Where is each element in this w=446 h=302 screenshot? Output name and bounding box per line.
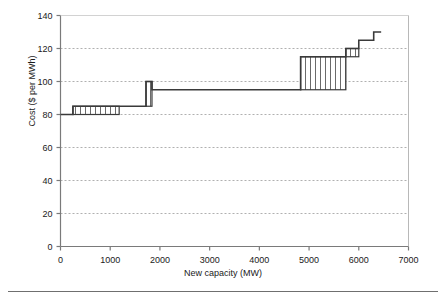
x-tick-label: 6000: [349, 255, 369, 265]
y-tick-label: 0: [47, 242, 52, 252]
x-axis-title: New capacity (MW): [0, 268, 446, 278]
x-tick-label: 2000: [150, 255, 170, 265]
x-tick-label: 5000: [299, 255, 319, 265]
y-tick-labels: 020406080100120140: [37, 11, 52, 252]
x-tick-label: 7000: [398, 255, 418, 265]
x-tick-label: 1000: [100, 255, 120, 265]
y-tick-label: 120: [37, 44, 52, 54]
cost-step-block: [73, 106, 119, 114]
y-tick-label: 40: [42, 176, 52, 186]
y-tick-label: 20: [42, 209, 52, 219]
y-tick-label: 80: [42, 110, 52, 120]
supply-cost-curve: [61, 32, 382, 115]
x-tick-label: 3000: [200, 255, 220, 265]
y-tick-label: 60: [42, 143, 52, 153]
y-tick-label: 100: [37, 77, 52, 87]
chart-figure: 020406080100120140 010002000300040005000…: [0, 0, 446, 302]
x-tick-label: 0: [58, 255, 63, 265]
cost-step-block: [146, 82, 152, 107]
y-tick-label: 140: [37, 11, 52, 21]
cost-step-block: [346, 49, 359, 57]
x-tick-labels: 01000200030004000500060007000: [58, 255, 419, 265]
footer-divider: [8, 291, 438, 292]
y-axis-title: Cost ($ per MWh): [27, 21, 37, 161]
cost-step-block: [301, 57, 346, 90]
chart-canvas: 020406080100120140 010002000300040005000…: [0, 0, 446, 302]
x-tick-label: 4000: [249, 255, 269, 265]
